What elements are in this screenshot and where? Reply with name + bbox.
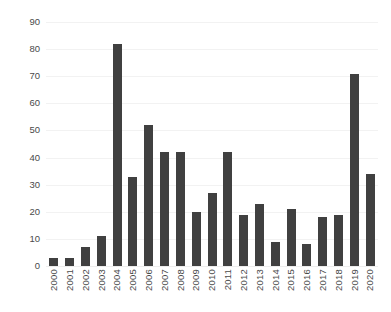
- y-tick-label: 0: [0, 261, 40, 271]
- bar-2020[interactable]: [366, 174, 375, 266]
- x-slot: 2015: [283, 269, 299, 309]
- y-tick-label: 30: [0, 180, 40, 190]
- x-slot: 2004: [109, 269, 125, 309]
- x-slot: 2014: [267, 269, 283, 309]
- bar-slot: [109, 22, 125, 266]
- bar-slot: [141, 22, 157, 266]
- x-slot: 2013: [252, 269, 268, 309]
- x-tick-label: 2017: [318, 269, 328, 291]
- x-tick-label: 2011: [223, 269, 233, 290]
- y-tick-label: 70: [0, 71, 40, 81]
- bar-slot: [331, 22, 347, 266]
- bar-slot: [220, 22, 236, 266]
- x-slot: 2009: [188, 269, 204, 309]
- x-slot: 2011: [220, 269, 236, 309]
- x-slot: 2017: [315, 269, 331, 309]
- bar-2016[interactable]: [302, 244, 311, 266]
- bar-slot: [204, 22, 220, 266]
- y-axis: 0102030405060708090: [0, 22, 40, 266]
- bar-slot: [125, 22, 141, 266]
- x-slot: 2018: [331, 269, 347, 309]
- y-tick-label: 90: [0, 17, 40, 27]
- bar-slot: [173, 22, 189, 266]
- bar-slot: [346, 22, 362, 266]
- bar-2009[interactable]: [192, 212, 201, 266]
- x-tick-label: 2002: [81, 269, 91, 291]
- x-slot: 2006: [141, 269, 157, 309]
- x-slot: 2000: [46, 269, 62, 309]
- x-tick-label: 2006: [144, 269, 154, 291]
- bar-2006[interactable]: [144, 125, 153, 266]
- x-slot: 2016: [299, 269, 315, 309]
- x-tick-label: 2012: [239, 269, 249, 291]
- y-tick-label: 40: [0, 153, 40, 163]
- bar-2004[interactable]: [113, 44, 122, 266]
- y-tick-label: 10: [0, 234, 40, 244]
- gridline-0: [46, 266, 378, 267]
- x-tick-label: 2014: [271, 269, 281, 291]
- bar-series: [46, 22, 378, 266]
- bar-slot: [236, 22, 252, 266]
- x-tick-label: 2004: [112, 269, 122, 291]
- bar-slot: [46, 22, 62, 266]
- x-tick-label: 2000: [49, 269, 59, 291]
- bar-2007[interactable]: [160, 152, 169, 266]
- bar-2014[interactable]: [271, 242, 280, 266]
- bar-2013[interactable]: [255, 204, 264, 266]
- bar-2011[interactable]: [223, 152, 232, 266]
- bar-2010[interactable]: [208, 193, 217, 266]
- y-tick-label: 20: [0, 207, 40, 217]
- x-tick-label: 2003: [97, 269, 107, 291]
- bar-2001[interactable]: [65, 258, 74, 266]
- bar-slot: [267, 22, 283, 266]
- bar-slot: [157, 22, 173, 266]
- bar-slot: [315, 22, 331, 266]
- bar-2012[interactable]: [239, 215, 248, 267]
- x-tick-label: 2019: [350, 269, 360, 291]
- bar-slot: [252, 22, 268, 266]
- x-tick-label: 2016: [302, 269, 312, 291]
- x-slot: 2007: [157, 269, 173, 309]
- x-slot: 2012: [236, 269, 252, 309]
- y-tick-label: 50: [0, 126, 40, 136]
- bar-slot: [78, 22, 94, 266]
- x-axis: 2000200120022003200420052006200720082009…: [46, 269, 378, 309]
- x-tick-label: 2005: [128, 269, 138, 291]
- bar-slot: [362, 22, 378, 266]
- x-slot: 2003: [93, 269, 109, 309]
- x-slot: 2002: [78, 269, 94, 309]
- bar-2019[interactable]: [350, 74, 359, 266]
- x-tick-label: 2008: [176, 269, 186, 291]
- bar-2000[interactable]: [49, 258, 58, 266]
- bar-2003[interactable]: [97, 236, 106, 266]
- bar-2002[interactable]: [81, 247, 90, 266]
- x-slot: 2005: [125, 269, 141, 309]
- bar-2005[interactable]: [128, 177, 137, 266]
- x-tick-label: 2018: [334, 269, 344, 291]
- x-tick-label: 2007: [160, 269, 170, 291]
- bar-slot: [62, 22, 78, 266]
- y-tick-label: 80: [0, 44, 40, 54]
- y-tick-label: 60: [0, 99, 40, 109]
- bar-2008[interactable]: [176, 152, 185, 266]
- bar-slot: [93, 22, 109, 266]
- x-tick-label: 2009: [191, 269, 201, 291]
- x-slot: 2001: [62, 269, 78, 309]
- x-tick-label: 2001: [65, 269, 75, 291]
- bar-2018[interactable]: [334, 215, 343, 267]
- bar-2017[interactable]: [318, 217, 327, 266]
- bar-slot: [299, 22, 315, 266]
- bar-slot: [283, 22, 299, 266]
- bar-slot: [188, 22, 204, 266]
- bar-chart: 0102030405060708090 20002001200220032004…: [0, 0, 391, 312]
- x-tick-label: 2015: [286, 269, 296, 291]
- x-tick-label: 2020: [365, 269, 375, 291]
- bar-2015[interactable]: [287, 209, 296, 266]
- plot-area: [46, 22, 378, 266]
- x-tick-label: 2010: [207, 269, 217, 291]
- x-slot: 2010: [204, 269, 220, 309]
- x-tick-label: 2013: [255, 269, 265, 291]
- x-slot: 2008: [173, 269, 189, 309]
- x-slot: 2019: [346, 269, 362, 309]
- x-slot: 2020: [362, 269, 378, 309]
